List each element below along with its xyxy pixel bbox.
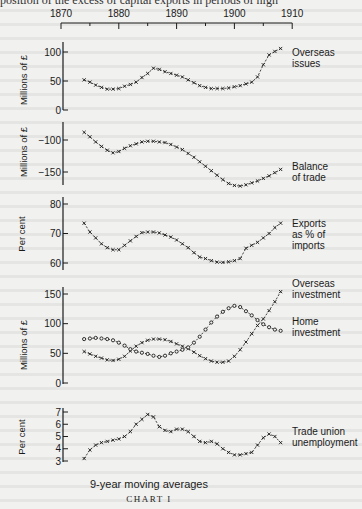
x-marker bbox=[163, 70, 166, 73]
circle-marker bbox=[129, 348, 132, 351]
x-marker bbox=[233, 355, 236, 358]
x-marker bbox=[192, 251, 195, 254]
y-tick-label: −100 bbox=[38, 135, 61, 146]
y-tick-label: 70 bbox=[50, 228, 62, 239]
x-marker bbox=[279, 290, 282, 293]
x-marker bbox=[187, 78, 190, 81]
x-marker bbox=[123, 244, 126, 247]
chart-panel-4: 050100150Millions of £Overseasinvestment… bbox=[18, 278, 341, 389]
y-axis-label: Millions of £ bbox=[18, 319, 29, 370]
x-marker bbox=[83, 350, 86, 353]
x-marker bbox=[83, 457, 86, 460]
circle-marker bbox=[106, 337, 109, 340]
x-marker bbox=[250, 244, 253, 247]
x-marker bbox=[262, 317, 265, 320]
circle-marker bbox=[250, 314, 253, 317]
y-tick-label: 80 bbox=[50, 199, 62, 210]
x-marker bbox=[215, 174, 218, 177]
y-tick-label: 4 bbox=[55, 443, 61, 454]
circle-marker bbox=[181, 348, 184, 351]
x-marker bbox=[146, 72, 149, 75]
x-marker bbox=[192, 81, 195, 84]
x-marker bbox=[279, 222, 282, 225]
x-marker bbox=[146, 413, 149, 416]
y-tick-label: −150 bbox=[38, 167, 61, 178]
y-tick-label: 7 bbox=[55, 407, 61, 418]
x-marker bbox=[129, 239, 132, 242]
circle-marker bbox=[192, 341, 195, 344]
x-marker bbox=[158, 425, 161, 428]
x-marker bbox=[140, 418, 143, 421]
x-tick-label: 1910 bbox=[281, 8, 304, 19]
x-marker bbox=[187, 152, 190, 155]
x-marker bbox=[262, 177, 265, 180]
series-label: Home bbox=[292, 316, 319, 327]
series-label: Balance bbox=[292, 161, 329, 172]
x-marker bbox=[198, 354, 201, 357]
x-marker bbox=[198, 160, 201, 163]
y-tick-label: 100 bbox=[44, 318, 61, 329]
x-marker bbox=[227, 182, 230, 185]
chart-panel-2: −100−150Millions of £Balanceof trade bbox=[18, 122, 329, 188]
circle-marker bbox=[215, 315, 218, 318]
x-marker bbox=[273, 50, 276, 53]
chart-figure: 18701880189019001910 050100Millions of £… bbox=[0, 0, 362, 509]
y-tick-label: 0 bbox=[55, 378, 61, 389]
y-axis-label: Per cent bbox=[16, 419, 27, 455]
circle-marker bbox=[169, 352, 172, 355]
chart-subtitle: 9-year moving averages bbox=[0, 478, 330, 490]
circle-marker bbox=[83, 337, 86, 340]
x-marker bbox=[129, 430, 132, 433]
x-marker bbox=[88, 230, 91, 233]
circle-marker bbox=[117, 341, 120, 344]
circle-marker bbox=[140, 351, 143, 354]
y-tick-label: 150 bbox=[44, 289, 61, 300]
x-tick-label: 1890 bbox=[165, 8, 188, 19]
x-marker bbox=[267, 174, 270, 177]
x-marker bbox=[256, 75, 259, 78]
y-tick-label: 6 bbox=[55, 419, 61, 430]
x-marker bbox=[123, 435, 126, 438]
circle-marker bbox=[175, 350, 178, 353]
x-marker bbox=[135, 423, 138, 426]
circle-marker bbox=[239, 305, 242, 308]
x-marker bbox=[221, 178, 224, 181]
x-marker bbox=[152, 67, 155, 70]
x-marker bbox=[163, 429, 166, 432]
x-marker bbox=[244, 247, 247, 250]
x-tick-label: 1900 bbox=[223, 8, 246, 19]
x-marker bbox=[94, 443, 97, 446]
x-marker bbox=[106, 149, 109, 152]
x-marker bbox=[117, 437, 120, 440]
x-marker bbox=[140, 341, 143, 344]
x-marker bbox=[123, 355, 126, 358]
circle-marker bbox=[256, 319, 259, 322]
x-marker bbox=[279, 441, 282, 444]
y-tick-label: 3 bbox=[55, 456, 61, 467]
x-marker bbox=[169, 430, 172, 433]
x-marker bbox=[158, 68, 161, 71]
series-label: of trade bbox=[292, 172, 326, 183]
chart-title: CHART I bbox=[0, 494, 330, 504]
x-marker bbox=[210, 169, 213, 172]
circle-marker bbox=[279, 329, 282, 332]
x-marker bbox=[152, 415, 155, 418]
x-marker bbox=[88, 81, 91, 84]
x-marker bbox=[227, 451, 230, 454]
y-axis-label: Millions of £ bbox=[18, 54, 29, 105]
x-marker bbox=[181, 148, 184, 151]
x-marker bbox=[267, 309, 270, 312]
x-marker bbox=[169, 143, 172, 146]
x-marker bbox=[88, 135, 91, 138]
series-label: unemployment bbox=[292, 437, 358, 448]
y-tick-label: 50 bbox=[50, 76, 62, 87]
x-marker bbox=[267, 232, 270, 235]
circle-marker bbox=[123, 344, 126, 347]
x-marker bbox=[192, 156, 195, 159]
circle-marker bbox=[152, 354, 155, 357]
x-marker bbox=[279, 47, 282, 50]
y-tick-label: 5 bbox=[55, 431, 61, 442]
x-marker bbox=[94, 236, 97, 239]
x-marker bbox=[88, 352, 91, 355]
x-marker bbox=[187, 246, 190, 249]
